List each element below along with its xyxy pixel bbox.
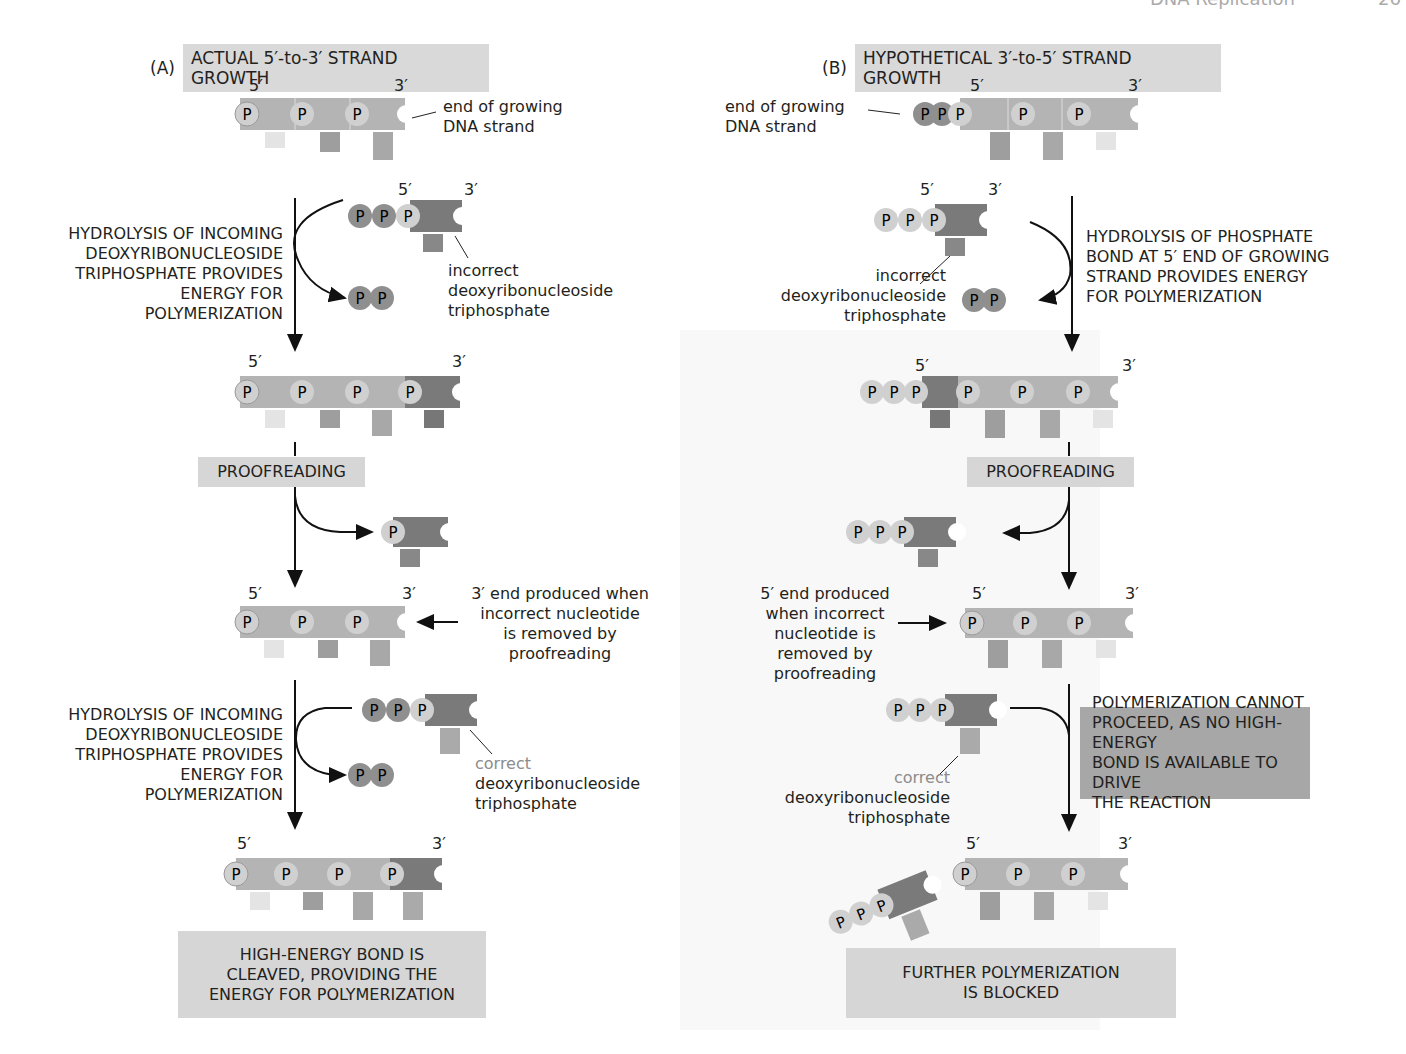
- b4-3prime: 3′: [1125, 584, 1139, 603]
- a4-3prime: 3′: [402, 584, 416, 603]
- svg-text:P: P: [960, 866, 969, 884]
- b2-3prime: 3′: [988, 180, 1002, 199]
- label-line: triphosphate: [475, 794, 640, 814]
- label-line: incorrect: [730, 266, 946, 286]
- caption-line: TRIPHOSPHATE PROVIDES: [15, 745, 283, 765]
- svg-text:P: P: [937, 106, 946, 124]
- box-line: ENERGY FOR POLYMERIZATION: [209, 985, 455, 1005]
- a3-3prime: 3′: [452, 352, 466, 371]
- svg-text:P: P: [1074, 106, 1083, 124]
- panel-b-end-label: end of growing DNA strand: [725, 97, 845, 137]
- b3-5prime: 5′: [915, 356, 929, 375]
- panel-a-end-label: end of growing DNA strand: [443, 97, 563, 137]
- svg-text:P: P: [915, 702, 924, 720]
- svg-text:P: P: [963, 384, 972, 402]
- svg-text:P: P: [379, 208, 388, 226]
- a1-5prime: 5′: [249, 76, 263, 95]
- caption-line: ENERGY FOR: [20, 284, 283, 304]
- svg-text:P: P: [369, 702, 378, 720]
- caption-line: ENERGY FOR: [15, 765, 283, 785]
- label-line: triphosphate: [730, 306, 946, 326]
- svg-text:P: P: [905, 212, 914, 230]
- box-line: HIGH-ENERGY BOND IS: [240, 945, 424, 965]
- panel-a-3prime-end-label: 3′ end produced when incorrect nucleotid…: [460, 584, 660, 664]
- svg-text:P: P: [242, 106, 251, 124]
- svg-text:P: P: [417, 702, 426, 720]
- panel-b-correct-label: correct deoxyribonucleoside triphosphate: [740, 768, 950, 828]
- svg-text:P: P: [297, 384, 306, 402]
- svg-text:P: P: [911, 384, 920, 402]
- panel-a-strand-4: P P P P: [224, 858, 452, 920]
- b1-3prime: 3′: [1128, 76, 1142, 95]
- b2-5prime: 5′: [920, 180, 934, 199]
- b3-3prime: 3′: [1122, 356, 1136, 375]
- a2-5prime: 5′: [398, 180, 412, 199]
- svg-text:P: P: [920, 106, 929, 124]
- panel-a-strand-1: P P P: [235, 98, 436, 160]
- panel-a-strand-2: P P P P: [235, 376, 470, 436]
- svg-text:P: P: [355, 208, 364, 226]
- label-line: deoxyribonucleoside: [475, 774, 640, 794]
- label-line: correct: [475, 754, 640, 774]
- svg-text:P: P: [387, 866, 396, 884]
- svg-text:P: P: [388, 524, 397, 542]
- svg-text:P: P: [929, 212, 938, 230]
- label-line: proofreading: [460, 644, 660, 664]
- svg-text:P: P: [1018, 106, 1027, 124]
- box-line: PROCEED, AS NO HIGH-ENERGY: [1092, 713, 1310, 753]
- a4-5prime: 5′: [248, 584, 262, 603]
- svg-text:P: P: [231, 866, 240, 884]
- label-line: is removed by: [460, 624, 660, 644]
- panel-b-5prime-end-label: 5′ end produced when incorrect nucleotid…: [750, 584, 900, 684]
- replication-diagram: P P P P P P P P P P: [0, 0, 1406, 1054]
- panel-a-removed-nucleotide: P: [381, 517, 458, 567]
- svg-text:P: P: [403, 208, 412, 226]
- caption-line: STRAND PROVIDES ENERGY: [1086, 267, 1330, 287]
- b1-5prime: 5′: [970, 76, 984, 95]
- label-line: triphosphate: [448, 301, 613, 321]
- svg-text:P: P: [355, 767, 364, 785]
- svg-text:P: P: [853, 524, 862, 542]
- end-label-line: end of growing: [443, 97, 563, 117]
- panel-b-correct-dntp: P P P: [886, 694, 1007, 777]
- svg-text:P: P: [867, 384, 876, 402]
- svg-text:P: P: [881, 212, 890, 230]
- label-line: nucleotide is: [750, 624, 900, 644]
- label-line: when incorrect: [750, 604, 900, 624]
- svg-text:P: P: [377, 290, 386, 308]
- caption-line: TRIPHOSPHATE PROVIDES: [20, 264, 283, 284]
- caption-line: HYDROLYSIS OF PHOSPHATE: [1086, 227, 1330, 247]
- panel-b-strand-3: P P P: [960, 608, 1143, 668]
- box-line: FURTHER POLYMERIZATION: [902, 963, 1119, 983]
- panel-b-strand-4: P P P: [953, 858, 1138, 920]
- caption-line: DEOXYRIBONUCLEOSIDE: [20, 244, 283, 264]
- svg-text:P: P: [242, 384, 251, 402]
- panel-b-incorrect-label: incorrect deoxyribonucleoside triphospha…: [730, 266, 946, 326]
- caption-line: FOR POLYMERIZATION: [1086, 287, 1330, 307]
- panel-a-correct-dntp: P P P: [362, 694, 492, 754]
- label-line: 5′ end produced: [750, 584, 900, 604]
- svg-text:P: P: [1074, 615, 1083, 633]
- panel-a-incorrect-label: incorrect deoxyribonucleoside triphospha…: [448, 261, 613, 321]
- end-label-line: DNA strand: [725, 117, 845, 137]
- svg-text:P: P: [989, 292, 998, 310]
- svg-text:P: P: [405, 384, 414, 402]
- panel-a-step1-caption: HYDROLYSIS OF INCOMING DEOXYRIBONUCLEOSI…: [20, 224, 283, 324]
- box-line: CLEAVED, PROVIDING THE: [227, 965, 438, 985]
- box-line: POLYMERIZATION CANNOT: [1092, 693, 1304, 713]
- a3-5prime: 5′: [248, 352, 262, 371]
- panel-a-strand-3: P P P: [235, 606, 415, 666]
- svg-text:P: P: [1017, 384, 1026, 402]
- caption-line: BOND AT 5′ END OF GROWING: [1086, 247, 1330, 267]
- box-line: BOND IS AVAILABLE TO DRIVE: [1092, 753, 1310, 793]
- svg-text:P: P: [889, 384, 898, 402]
- svg-text:P: P: [334, 866, 343, 884]
- a2-3prime: 3′: [464, 180, 478, 199]
- panel-a-correct-label: correct deoxyribonucleoside triphosphate: [475, 754, 640, 814]
- panel-b-step1-caption: HYDROLYSIS OF PHOSPHATE BOND AT 5′ END O…: [1086, 227, 1330, 307]
- caption-line: POLYMERIZATION: [15, 785, 283, 805]
- label-line: proofreading: [750, 664, 900, 684]
- a5-3prime: 3′: [432, 834, 446, 853]
- caption-line: DEOXYRIBONUCLEOSIDE: [15, 725, 283, 745]
- svg-text:P: P: [955, 106, 964, 124]
